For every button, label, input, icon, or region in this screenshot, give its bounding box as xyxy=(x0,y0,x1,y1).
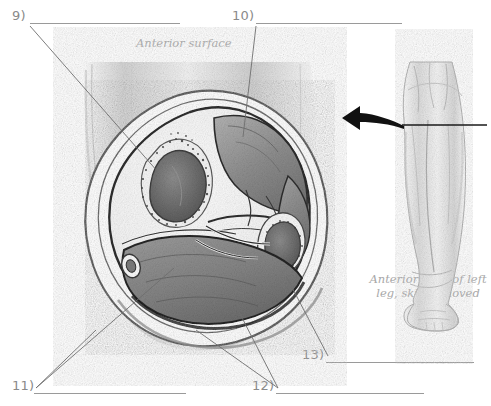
section-contents xyxy=(109,107,310,328)
cross-section-outline xyxy=(85,91,327,347)
anatomy-illustration xyxy=(0,0,491,406)
answer-line-11[interactable] xyxy=(34,393,186,394)
label-12-number: 12) xyxy=(252,378,274,393)
section-drop-shadow xyxy=(118,288,322,348)
tibia xyxy=(141,132,212,227)
label-10-number: 10) xyxy=(232,8,254,23)
fibula xyxy=(258,213,305,276)
answer-line-9[interactable] xyxy=(30,23,180,24)
worksheet-page: 9) 10) 11) 12) 13) Anterior surface Ante… xyxy=(0,0,491,406)
caption-leg-view-line2: leg, skin removed xyxy=(368,286,488,302)
limb-shaft xyxy=(82,62,318,350)
answer-line-12[interactable] xyxy=(276,393,424,394)
label-13-number: 13) xyxy=(302,347,324,362)
leader-lines xyxy=(30,26,328,388)
vessel-ring xyxy=(119,252,144,280)
label-9-number: 9) xyxy=(12,8,26,23)
caption-anterior-surface: Anterior surface xyxy=(136,36,232,50)
curved-arrow-icon xyxy=(342,106,404,130)
answer-line-13[interactable] xyxy=(326,362,474,363)
answer-line-10[interactable] xyxy=(256,23,402,24)
label-11-number: 11) xyxy=(12,378,34,393)
